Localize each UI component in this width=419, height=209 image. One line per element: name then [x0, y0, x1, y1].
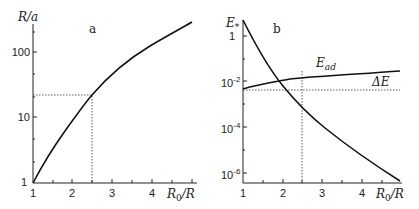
- x-tick-label: 1: [240, 187, 246, 199]
- y-tick-label: 100: [12, 46, 30, 58]
- guide-lines-a: [33, 95, 92, 183]
- x-axis-label-a: R0/R: [166, 187, 195, 203]
- y-tick-label: 10-6: [221, 167, 241, 181]
- x-ticks-b: [263, 179, 382, 183]
- y-ticks-b: [243, 36, 247, 173]
- curve-label-E-ad: Ead: [315, 56, 336, 72]
- x-tick-label: 3: [109, 187, 115, 199]
- y-ticks-a: [33, 32, 37, 162]
- curve-R-over-a: [33, 22, 192, 183]
- y-axis-label-a: R/a: [17, 10, 38, 24]
- y-tick-label: 1: [21, 176, 27, 188]
- panel-a: 1 10 100 1 2 3 4 R0/R R/a a: [12, 10, 197, 203]
- x-ticks-a: [53, 179, 192, 183]
- y-axis-label-b: E*: [225, 16, 240, 32]
- y-tick-label: 10-4: [221, 121, 241, 135]
- x-tick-label: 4: [359, 187, 365, 199]
- x-tick-label: 4: [149, 187, 155, 199]
- x-tick-label: 1: [30, 187, 36, 199]
- y-tick-label: 10: [18, 111, 30, 123]
- x-tick-label: 2: [280, 187, 286, 199]
- panel-b: 1 10-2 10-4 10-6 1 2 3 4 R0/R E* b Ead Δ…: [221, 16, 404, 203]
- y-tick-label: 10-2: [221, 75, 241, 89]
- x-axis-label-b: R0/R: [375, 187, 404, 203]
- panel-label-a: a: [89, 22, 96, 36]
- figure: 1 10 100 1 2 3 4 R0/R R/a a 1 10-2 1: [0, 0, 419, 209]
- x-tick-label: 3: [319, 187, 325, 199]
- curve-E-star: [243, 20, 400, 181]
- curve-label-delta-E: ΔE: [371, 75, 390, 89]
- x-tick-label: 2: [69, 187, 75, 199]
- panel-label-b: b: [273, 22, 281, 36]
